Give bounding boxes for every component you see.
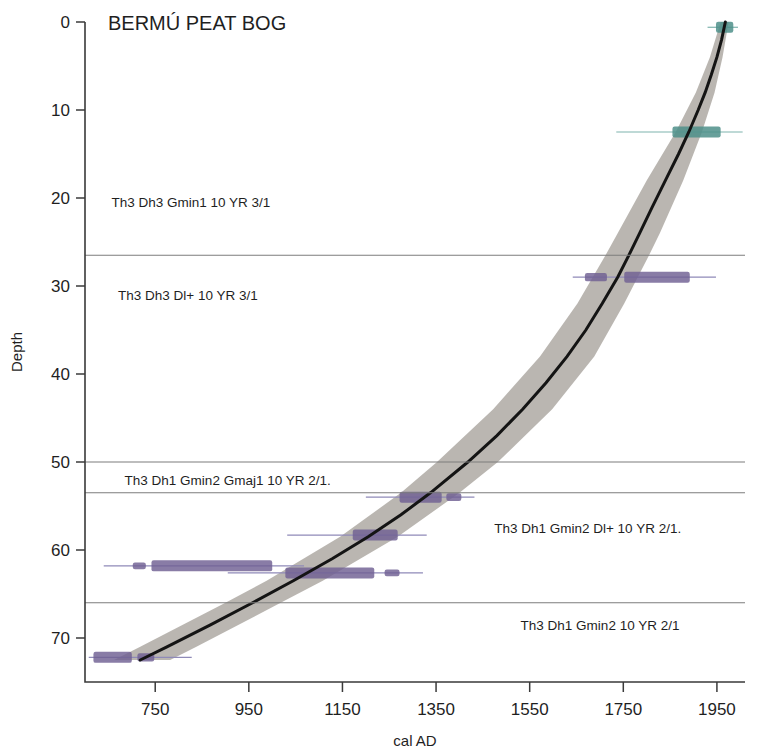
dated-level — [573, 272, 716, 283]
stratigraphic-unit-label: Th3 Dh3 Gmin1 10 YR 3/1 — [111, 195, 270, 210]
dated-level — [287, 530, 426, 541]
x-tick-label: 950 — [235, 700, 263, 719]
x-tick-label: 750 — [141, 700, 169, 719]
y-tick-label: 60 — [51, 541, 70, 560]
stratigraphic-unit-label: Th3 Dh1 Gmin2 Dl+ 10 YR 2/1. — [494, 521, 681, 536]
y-tick-label: 20 — [51, 189, 70, 208]
dated-level — [104, 560, 304, 571]
age-depth-chart: 0102030405060707509501150135015501750195… — [0, 0, 763, 754]
y-tick-label: 40 — [51, 365, 70, 384]
date-probability-distribution — [585, 273, 607, 281]
date-probability-distribution — [133, 563, 146, 570]
page-title: BERMÚ PEAT BOG — [108, 12, 286, 34]
radiocarbon-dates-group — [89, 22, 743, 663]
dated-level — [616, 127, 742, 138]
stratigraphic-boundaries-group — [85, 255, 745, 603]
date-probability-distribution — [624, 272, 690, 283]
date-probability-distribution — [446, 493, 461, 501]
date-probability-distribution — [385, 570, 400, 577]
axis-frame — [85, 22, 745, 682]
labels-group: BERMÚ PEAT BOGcal ADDepthTh3 Dh3 Gmin1 1… — [8, 12, 681, 749]
y-tick-label: 30 — [51, 277, 70, 296]
age-depth-figure: 0102030405060707509501150135015501750195… — [0, 0, 763, 754]
y-axis-label: Depth — [8, 332, 25, 372]
x-tick-label: 1550 — [511, 700, 549, 719]
x-axis-label: cal AD — [393, 732, 437, 749]
axes-group: 0102030405060707509501150135015501750195… — [51, 13, 745, 719]
date-probability-distribution — [672, 127, 720, 138]
stratigraphic-unit-label: Th3 Dh1 Gmin2 Gmaj1 10 YR 2/1. — [125, 473, 331, 488]
x-tick-label: 1950 — [698, 700, 736, 719]
y-tick-label: 0 — [61, 13, 70, 32]
x-tick-label: 1150 — [324, 700, 361, 719]
y-tick-label: 50 — [51, 453, 70, 472]
stratigraphic-unit-label: Th3 Dh3 Dl+ 10 YR 3/1 — [118, 288, 258, 303]
y-tick-label: 10 — [51, 101, 70, 120]
y-tick-label: 70 — [51, 629, 70, 648]
x-tick-label: 1750 — [604, 700, 642, 719]
date-probability-distribution — [93, 652, 131, 663]
stratigraphic-unit-label: Th3 Dh1 Gmin2 10 YR 2/1 — [521, 618, 680, 633]
date-probability-distribution — [151, 560, 272, 571]
x-tick-label: 1350 — [417, 700, 455, 719]
